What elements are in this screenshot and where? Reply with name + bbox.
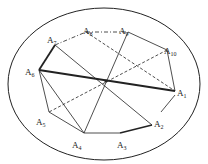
segment-a6-a4 [39, 70, 84, 133]
label-a1: A1 [177, 88, 187, 99]
label-a6: A6 [25, 67, 35, 78]
outer-ellipse [8, 8, 200, 160]
label-a2: A2 [154, 119, 164, 130]
label-a9: A9 [119, 26, 129, 37]
segment-a10-a5 [49, 50, 167, 112]
label-a3: A3 [117, 140, 127, 151]
segments-layer [39, 32, 175, 133]
label-a5: A5 [36, 117, 46, 128]
segment-a9-a10 [128, 32, 167, 50]
label-a7: A7 [47, 35, 57, 46]
segment-a8-a1 [86, 32, 175, 91]
partial-segment-0 [161, 95, 175, 112]
segment-a7-a8 [55, 32, 86, 45]
segment-a6-a5 [39, 70, 49, 112]
label-a4: A4 [72, 140, 82, 151]
center-point [104, 79, 107, 82]
label-a8: A8 [83, 26, 93, 37]
segment-a3-a2 [120, 125, 152, 133]
segment-a5-a4 [49, 112, 84, 133]
segment-a7-a6 [39, 45, 55, 70]
polygon-in-ellipse-diagram: A1A2A3A4A5A6A7A8A9A10 [0, 0, 208, 164]
label-a10: A10 [164, 46, 177, 57]
